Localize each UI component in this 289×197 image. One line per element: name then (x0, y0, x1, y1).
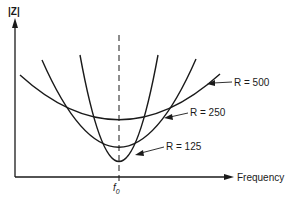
impedance-diagram: |Z| Frequency f0 R = 500 R = 250 R = 125 (0, 0, 289, 197)
label-r500: R = 500 (234, 77, 270, 88)
x-axis-arrow-icon (224, 174, 234, 180)
x-axis-label: Frequency (237, 172, 284, 183)
curve-r250 (42, 59, 196, 147)
label-r125: R = 125 (166, 141, 202, 152)
r125-arrow-icon (135, 150, 144, 156)
y-axis-label: |Z| (8, 6, 20, 17)
f0-tick-label: f0 (113, 182, 120, 195)
label-r250: R = 250 (190, 107, 226, 118)
r125-pointer (141, 147, 164, 153)
y-axis-arrow-icon (12, 18, 18, 28)
r250-pointer (170, 113, 188, 117)
r500-pointer (213, 82, 232, 83)
